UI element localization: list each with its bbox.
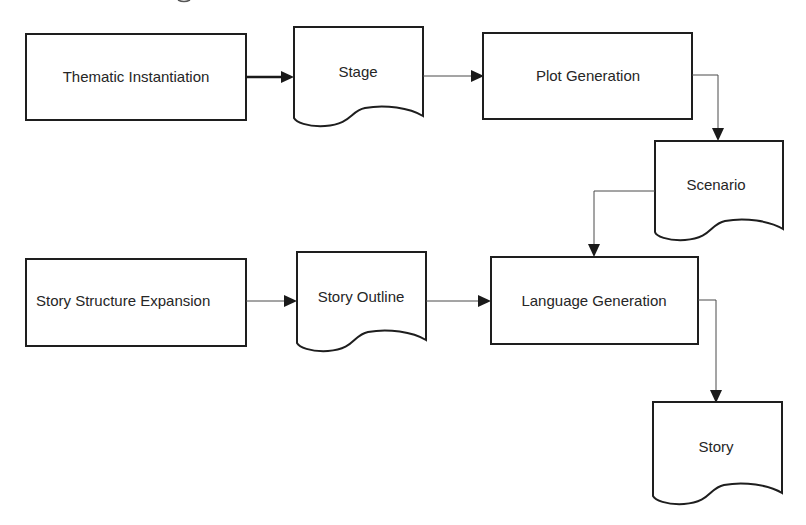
edge-story-outline-to-language-generation xyxy=(426,295,491,307)
arrowhead-icon xyxy=(712,128,724,141)
edge-stage-to-plot-generation xyxy=(423,70,484,82)
node-story-structure-expansion: Story Structure Expansion xyxy=(26,259,246,346)
node-label: Story Structure Expansion xyxy=(36,292,210,309)
arrowhead-icon xyxy=(284,295,297,307)
node-label: Plot Generation xyxy=(536,67,640,84)
cropped-title-fragment xyxy=(178,0,190,2)
node-scenario: Scenario xyxy=(655,141,783,240)
node-label: Story Outline xyxy=(318,288,405,305)
node-label: Scenario xyxy=(686,176,745,193)
arrowhead-icon xyxy=(281,71,294,83)
node-story: Story xyxy=(653,402,782,504)
edge-thematic-to-stage xyxy=(246,71,294,83)
arrowhead-icon xyxy=(588,244,600,257)
node-language-generation: Language Generation xyxy=(491,257,698,344)
node-label: Thematic Instantiation xyxy=(63,68,210,85)
node-thematic-instantiation: Thematic Instantiation xyxy=(26,34,246,120)
node-plot-generation: Plot Generation xyxy=(483,33,692,119)
node-label: Story xyxy=(698,438,734,455)
node-stage: Stage xyxy=(294,27,423,126)
node-story-outline: Story Outline xyxy=(297,252,426,351)
edge-language-generation-to-story xyxy=(698,300,722,403)
edge-scenario-to-language-generation xyxy=(588,191,655,257)
story-generation-flowchart: Thematic Instantiation Stage Plot Genera… xyxy=(0,0,806,525)
node-label: Language Generation xyxy=(521,292,666,309)
arrowhead-icon xyxy=(478,295,491,307)
edge-story-structure-to-story-outline xyxy=(246,295,297,307)
edge-plot-generation-to-scenario xyxy=(692,75,724,141)
node-label: Stage xyxy=(338,63,377,80)
